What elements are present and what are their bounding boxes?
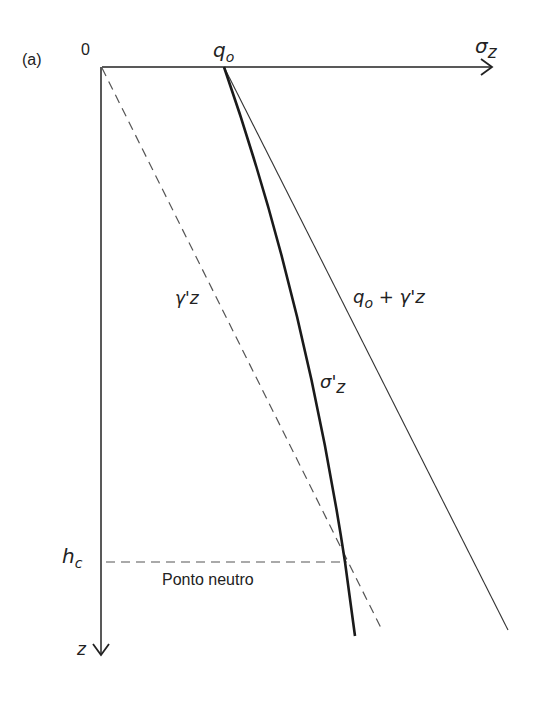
sigma-text: σ — [475, 34, 488, 58]
neutral-point-label: Ponto neutro — [162, 572, 254, 588]
gamma-z-line — [102, 68, 382, 630]
hc-subscript: c — [75, 555, 83, 571]
total-gamma-text: + γ'z — [373, 286, 425, 307]
panel-label: (a) — [22, 52, 42, 68]
total-q-subscript: o — [364, 295, 373, 311]
total-stress-line — [224, 67, 508, 630]
z-axis-label: z — [77, 641, 86, 658]
sigma-axis-label: σz — [475, 36, 497, 56]
total-stress-label: qo + γ'z — [353, 288, 425, 306]
sigma-subscript: z — [488, 42, 497, 62]
eff-sigma-subscript: z — [336, 377, 345, 397]
gamma-z-label: γ'z — [175, 290, 199, 307]
diagram-canvas — [0, 0, 545, 716]
q0-subscript: o — [226, 49, 235, 65]
total-q-text: q — [353, 286, 364, 307]
eff-sigma-text: σ' — [320, 371, 336, 392]
hc-text: h — [62, 544, 75, 568]
origin-label: 0 — [81, 42, 90, 58]
q0-text: q — [213, 38, 226, 62]
effective-stress-label: σ'z — [320, 373, 345, 391]
hc-label: hc — [62, 546, 82, 566]
q0-label: qo — [213, 40, 234, 60]
